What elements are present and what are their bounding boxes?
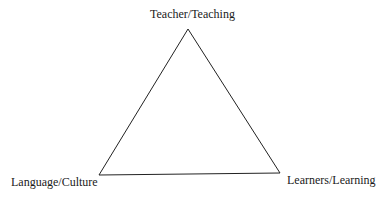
triangle-shape bbox=[0, 0, 384, 200]
vertex-label-teacher-teaching: Teacher/Teaching bbox=[150, 8, 235, 20]
vertex-label-learners-learning: Learners/Learning bbox=[287, 174, 376, 186]
vertex-label-language-culture: Language/Culture bbox=[11, 176, 98, 188]
triangle-outline bbox=[99, 29, 280, 175]
triangle-diagram bbox=[0, 0, 384, 200]
